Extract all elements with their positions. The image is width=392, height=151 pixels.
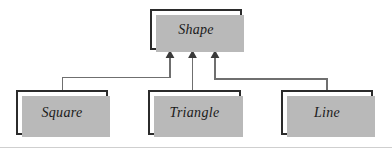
class-box-line[interactable]: Line bbox=[281, 90, 373, 135]
class-name-line: Line bbox=[314, 106, 340, 120]
class-box-triangle[interactable]: Triangle bbox=[148, 90, 241, 135]
class-name-shape: Shape bbox=[178, 23, 214, 37]
bottom-divider bbox=[0, 147, 392, 148]
edge-line-to-shape bbox=[215, 57, 327, 90]
class-box-square[interactable]: Square bbox=[16, 90, 108, 135]
class-diagram-canvas: Shape Square Triangle Line bbox=[0, 0, 392, 151]
class-name-square: Square bbox=[42, 106, 83, 120]
class-box-shape[interactable]: Shape bbox=[150, 9, 242, 50]
class-name-triangle: Triangle bbox=[170, 106, 220, 120]
edge-square-to-shape bbox=[63, 57, 171, 90]
